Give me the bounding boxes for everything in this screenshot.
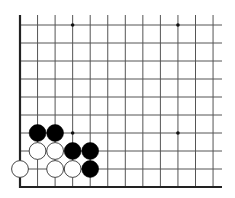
black-stone[interactable] [47, 125, 64, 142]
star-point [176, 131, 180, 135]
white-stone[interactable] [12, 161, 29, 178]
go-board [0, 0, 235, 198]
black-stone[interactable] [82, 143, 99, 160]
black-stone[interactable] [82, 161, 99, 178]
star-point [176, 23, 180, 27]
white-stone[interactable] [29, 143, 46, 160]
black-stone[interactable] [29, 125, 46, 142]
white-stone[interactable] [47, 143, 64, 160]
board-grid [19, 15, 222, 188]
star-point [71, 23, 75, 27]
star-point [71, 131, 75, 135]
black-stone[interactable] [64, 143, 81, 160]
white-stone[interactable] [64, 161, 81, 178]
white-stone[interactable] [47, 161, 64, 178]
